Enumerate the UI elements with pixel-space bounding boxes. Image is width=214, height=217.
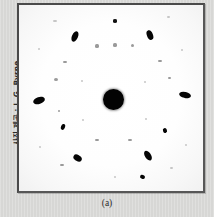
- diffraction-spot: [81, 80, 83, 82]
- diffraction-spot: [82, 119, 84, 121]
- diffraction-plate-frame: [17, 3, 205, 193]
- diffraction-spot: [142, 150, 153, 163]
- diffraction-spot: [168, 77, 171, 80]
- diffraction-spot: [158, 60, 161, 63]
- diffraction-spot: [38, 48, 41, 51]
- diffraction-spot: [113, 19, 118, 22]
- diffraction-spot: [39, 146, 42, 149]
- figure-caption: (a): [0, 198, 214, 208]
- diffraction-spot: [58, 110, 61, 113]
- diffraction-spot: [185, 144, 188, 147]
- diffraction-spot: [128, 139, 131, 142]
- diffraction-spot: [70, 30, 80, 42]
- diffraction-spot: [63, 61, 66, 64]
- diffraction-spot: [144, 81, 146, 83]
- diffraction-spot: [53, 20, 56, 23]
- diffraction-spot: [114, 176, 117, 179]
- figure-container: 사진 제공 : J. G. Byrne (a): [0, 0, 214, 217]
- diffraction-spot: [145, 29, 154, 41]
- diffraction-plate: [19, 5, 203, 191]
- diffraction-spot: [95, 44, 98, 47]
- central-beam-spot: [103, 89, 124, 110]
- diffraction-spot: [54, 78, 58, 81]
- diffraction-spot: [95, 139, 98, 142]
- diffraction-spot: [32, 95, 46, 105]
- diffraction-spot: [181, 49, 184, 52]
- diffraction-spot: [131, 44, 134, 47]
- diffraction-spot: [72, 153, 83, 163]
- diffraction-spot: [167, 16, 170, 19]
- diffraction-spot: [140, 174, 146, 179]
- diffraction-spot: [178, 91, 191, 100]
- diffraction-spot: [145, 118, 147, 120]
- diffraction-spot: [162, 128, 168, 134]
- diffraction-spot: [170, 167, 173, 170]
- diffraction-spot: [60, 164, 63, 167]
- diffraction-spot: [60, 123, 66, 130]
- diffraction-spot: [113, 43, 116, 46]
